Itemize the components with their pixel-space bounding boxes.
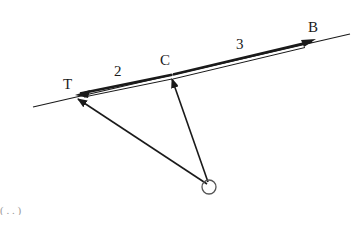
point-label-b: B bbox=[308, 20, 318, 35]
vector-o-to-t bbox=[78, 99, 207, 184]
segment-label-cb: 3 bbox=[236, 37, 244, 52]
cropped-text-fragment: ( . . ) bbox=[0, 205, 21, 215]
vector-o-to-c bbox=[172, 79, 208, 182]
arrowhead-b-icon bbox=[301, 39, 316, 47]
vector-c-to-b bbox=[173, 39, 316, 79]
point-label-t: T bbox=[63, 77, 72, 92]
point-label-c: C bbox=[160, 53, 170, 68]
segment-label-tc: 2 bbox=[114, 64, 122, 79]
origin-circle-icon bbox=[202, 180, 216, 194]
